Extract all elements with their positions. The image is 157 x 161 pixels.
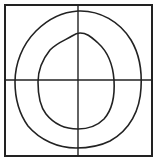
contour-diagram: [0, 0, 157, 161]
inner-loop: [38, 33, 114, 129]
diagram-canvas: contour-sketch: [0, 0, 157, 161]
